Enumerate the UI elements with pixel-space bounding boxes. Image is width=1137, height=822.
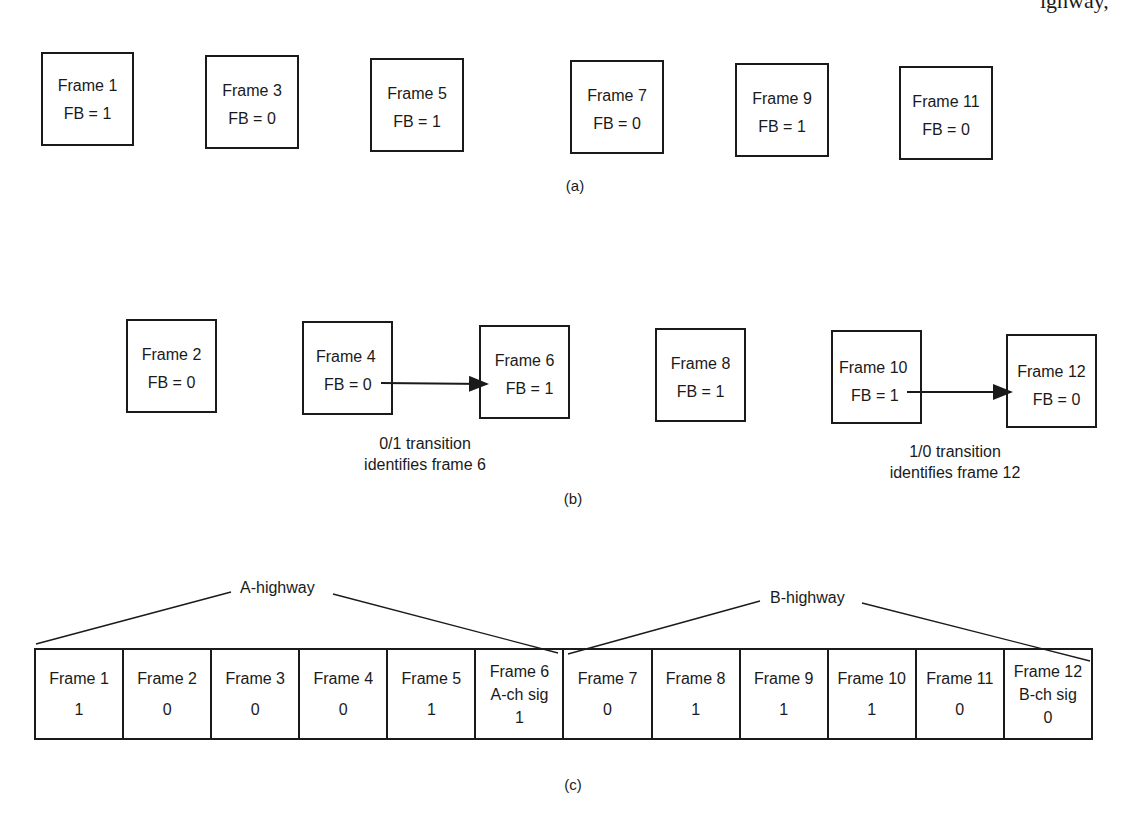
cell-sub: B-ch sig	[1005, 683, 1091, 706]
strip-cell-10: Frame 10 1	[829, 650, 917, 738]
strip-cell-4: Frame 4 0	[300, 650, 388, 738]
strip-cell-8: Frame 8 1	[653, 650, 741, 738]
cell-label: Frame 3	[212, 667, 298, 690]
cell-value: 1	[653, 698, 739, 721]
cell-label: Frame 12	[1005, 660, 1091, 683]
cell-label: Frame 4	[300, 667, 386, 690]
cell-value: 1	[829, 698, 915, 721]
cell-label: Frame 10	[829, 667, 915, 690]
cell-value: 0	[212, 698, 298, 721]
strip-cell-9: Frame 9 1	[741, 650, 829, 738]
cell-value: 0	[124, 698, 210, 721]
frame-sequence-strip: Frame 1 1 Frame 2 0 Frame 3 0 Frame 4 0 …	[34, 648, 1093, 740]
cell-value: 1	[388, 698, 474, 721]
strip-cell-7: Frame 7 0	[564, 650, 652, 738]
cell-value: 0	[564, 698, 650, 721]
a-highway-right-line	[333, 594, 558, 653]
cell-value: 1	[741, 698, 827, 721]
cell-label: Frame 5	[388, 667, 474, 690]
cell-value: 0	[1005, 706, 1091, 729]
cell-label: Frame 1	[36, 667, 122, 690]
b-highway-left-line	[568, 601, 760, 654]
strip-cell-3: Frame 3 0	[212, 650, 300, 738]
cell-value: 1	[36, 698, 122, 721]
a-highway-label: A-highway	[240, 579, 315, 597]
cell-label: Frame 8	[653, 667, 739, 690]
strip-cell-12: Frame 12 B-ch sig 0	[1005, 650, 1091, 738]
cell-label: Frame 2	[124, 667, 210, 690]
caption-c: (c)	[553, 776, 593, 793]
cell-label: Frame 6	[476, 660, 562, 683]
strip-cell-5: Frame 5 1	[388, 650, 476, 738]
transition-arrow-4-to-6	[381, 383, 487, 384]
strip-cell-11: Frame 11 0	[917, 650, 1005, 738]
b-highway-label: B-highway	[770, 589, 845, 607]
strip-cell-6: Frame 6 A-ch sig 1	[476, 650, 564, 738]
cell-label: Frame 7	[564, 667, 650, 690]
cell-value: 0	[300, 698, 386, 721]
cell-value: 0	[917, 698, 1003, 721]
cell-label: Frame 11	[917, 667, 1003, 690]
strip-cell-2: Frame 2 0	[124, 650, 212, 738]
cell-label: Frame 9	[741, 667, 827, 690]
cell-sub: A-ch sig	[476, 683, 562, 706]
a-highway-left-line	[36, 592, 231, 644]
strip-cell-1: Frame 1 1	[36, 650, 124, 738]
cell-value: 1	[476, 706, 562, 729]
